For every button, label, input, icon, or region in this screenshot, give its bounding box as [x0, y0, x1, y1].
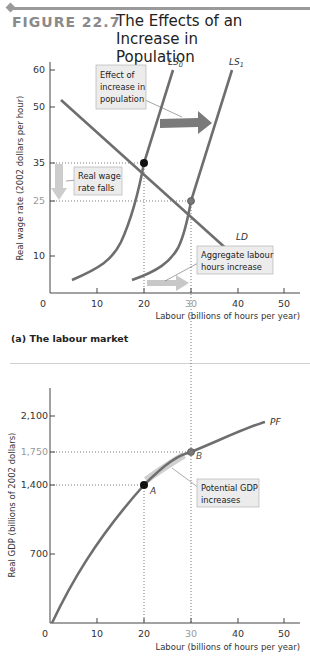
shift-right-arrow-icon	[160, 111, 212, 134]
callout-leader	[172, 468, 199, 488]
x-tick-label: 0	[40, 298, 46, 309]
point-b	[188, 449, 195, 456]
y-axis-label: Real wage rate (2002 dollars per hour)	[15, 96, 25, 261]
point-b-label: B	[196, 451, 202, 461]
point-a	[140, 481, 148, 489]
ld-label: LD	[236, 232, 248, 242]
svg-text:Potential GDP: Potential GDP	[201, 483, 258, 493]
svg-text:Aggregate labour: Aggregate labour	[201, 250, 274, 260]
y-axis-label: Real GDP (billions of 2002 dollars)	[7, 433, 17, 578]
x-ticks: 0 10 20 30 40 50	[42, 618, 290, 639]
x-tick-label: 0	[42, 628, 48, 639]
y-tick-label: 50	[33, 101, 45, 112]
pf-curve	[52, 422, 265, 623]
y-tick-label: 2,100	[21, 410, 48, 421]
y-tick-label: 25	[33, 195, 45, 206]
callout-leader	[165, 262, 200, 281]
gdp-increase-arrow-icon	[146, 455, 184, 480]
y-ticks: 60 50 35 25 10	[33, 64, 55, 261]
x-axis-label: Labour (billions of hours per year)	[155, 642, 300, 652]
y-tick-label: 1,400	[21, 479, 48, 490]
x-tick-label: 10	[91, 628, 103, 639]
x-tick-label: 20	[138, 628, 150, 639]
svg-text:increases: increases	[201, 495, 240, 505]
y-tick-label: 1,750	[21, 446, 48, 457]
equilibrium-point-initial	[140, 159, 148, 167]
callout-gdp-box	[197, 479, 259, 507]
x-tick-label: 40	[232, 298, 244, 309]
labour-market-chart: 60 50 35 25 10 0 10 20 30 40 50 Labour (…	[0, 0, 310, 330]
svg-text:Real wage: Real wage	[78, 171, 121, 181]
y-ticks: 2,100 1,750 1,400 700	[21, 410, 55, 559]
wage-down-arrow-icon	[51, 164, 67, 200]
panel-label: (a) The labour market	[11, 333, 128, 344]
x-tick-label: 50	[278, 298, 290, 309]
y-tick-label: 10	[33, 250, 45, 261]
ls1-label: LS1	[229, 57, 244, 69]
x-tick-label: 50	[278, 628, 290, 639]
point-a-label: A	[149, 486, 156, 496]
svg-text:rate falls: rate falls	[78, 183, 114, 193]
x-tick-label: 40	[232, 628, 244, 639]
x-tick-label: 30	[185, 628, 197, 639]
svg-text:population: population	[100, 94, 144, 104]
hours-right-arrow-icon	[147, 275, 189, 291]
svg-text:increase in: increase in	[100, 82, 145, 92]
callout-gdp-text: Potential GDP increases	[201, 483, 258, 505]
x-tick-label: 10	[91, 298, 103, 309]
panel-divider	[10, 363, 310, 364]
x-ticks: 0 10 20 30 40 50	[40, 288, 290, 309]
svg-text:hours increase: hours increase	[201, 262, 262, 272]
y-tick-label: 35	[33, 157, 45, 168]
equilibrium-point-new	[188, 198, 195, 205]
svg-text:Effect of: Effect of	[100, 70, 136, 80]
x-axis-label: Labour (billions of hours per year)	[155, 311, 300, 321]
y-tick-label: 60	[33, 64, 45, 75]
pf-label: PF	[270, 417, 281, 427]
x-tick-label: 20	[138, 298, 150, 309]
y-tick-label: 700	[30, 548, 48, 559]
ls0-label: LS0	[168, 57, 183, 69]
